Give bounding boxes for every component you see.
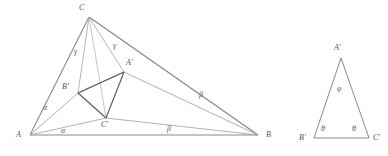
secondary-angle-label-theta-right: θ [352, 125, 356, 133]
inner-edge-B-prime-C-prime [78, 93, 106, 118]
geometry-diagram-canvas: A B C A' B' C' α α β β γ γ A' B' C' φ θ … [0, 0, 388, 156]
vertex-label-C: C [79, 4, 84, 12]
cevian-C-to-A-prime [89, 17, 124, 72]
cevians-from-C [78, 17, 124, 118]
cevian-A-to-C-prime [30, 118, 106, 135]
angle-label-gamma-right: γ [113, 42, 116, 50]
cevian-B-to-A-prime [124, 72, 258, 135]
inner-triangle-A-prime-B-prime-C-prime [78, 72, 124, 118]
vertex-label-C-prime: C' [101, 121, 108, 129]
vertex-label-A-prime: A' [126, 59, 133, 67]
vertex-label-B: B [266, 131, 271, 139]
secondary-vertex-label-B-prime: B' [299, 134, 306, 142]
angle-label-alpha-lower: α [61, 127, 65, 135]
main-triangle-outer-edges [30, 17, 258, 135]
secondary-vertex-label-A-prime: A' [334, 44, 341, 52]
cevian-C-to-C-prime [89, 17, 106, 118]
secondary-vertex-label-C-prime: C' [373, 134, 380, 142]
angle-label-alpha-upper: α [43, 104, 47, 112]
angle-label-beta-upper: β [199, 91, 203, 99]
diagram-svg [0, 0, 388, 156]
vertex-label-B-prime: B' [62, 83, 69, 91]
secondary-edge-A-prime-B-prime [314, 58, 341, 138]
cevian-B-to-C-prime [106, 118, 258, 135]
angle-label-gamma-left: γ [74, 48, 77, 56]
secondary-angle-label-phi: φ [337, 85, 341, 93]
angle-label-beta-lower: β [167, 125, 171, 133]
secondary-angle-label-theta-left: θ [321, 125, 325, 133]
vertex-label-A: A [16, 131, 21, 139]
cevian-A-to-B-prime [30, 93, 78, 135]
